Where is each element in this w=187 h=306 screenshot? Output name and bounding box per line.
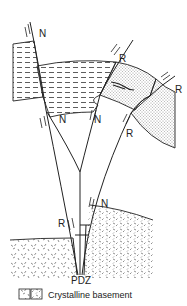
fault-diagram: N N N N R R R R PDZ Crystalline basement (0, 0, 187, 306)
legend: Crystalline basement (19, 289, 133, 300)
fault-label-n-bottom: N (101, 198, 108, 209)
basement-left (10, 238, 79, 278)
fault-label-n-top: N (39, 28, 46, 39)
pdz-label: PDZ (71, 275, 91, 286)
fault-label-r-bottom: R (58, 218, 65, 229)
legend-swatch-2 (31, 289, 42, 299)
fault-label-r-right: R (175, 84, 182, 95)
fault-label-n-center-left: N (59, 114, 66, 125)
fault-label-r-top: R (119, 53, 126, 64)
fault-label-n-center-right: N (94, 114, 101, 125)
legend-label: Crystalline basement (48, 290, 133, 300)
legend-swatch-1 (19, 289, 30, 299)
fault-label-r-middle: R (126, 128, 133, 139)
